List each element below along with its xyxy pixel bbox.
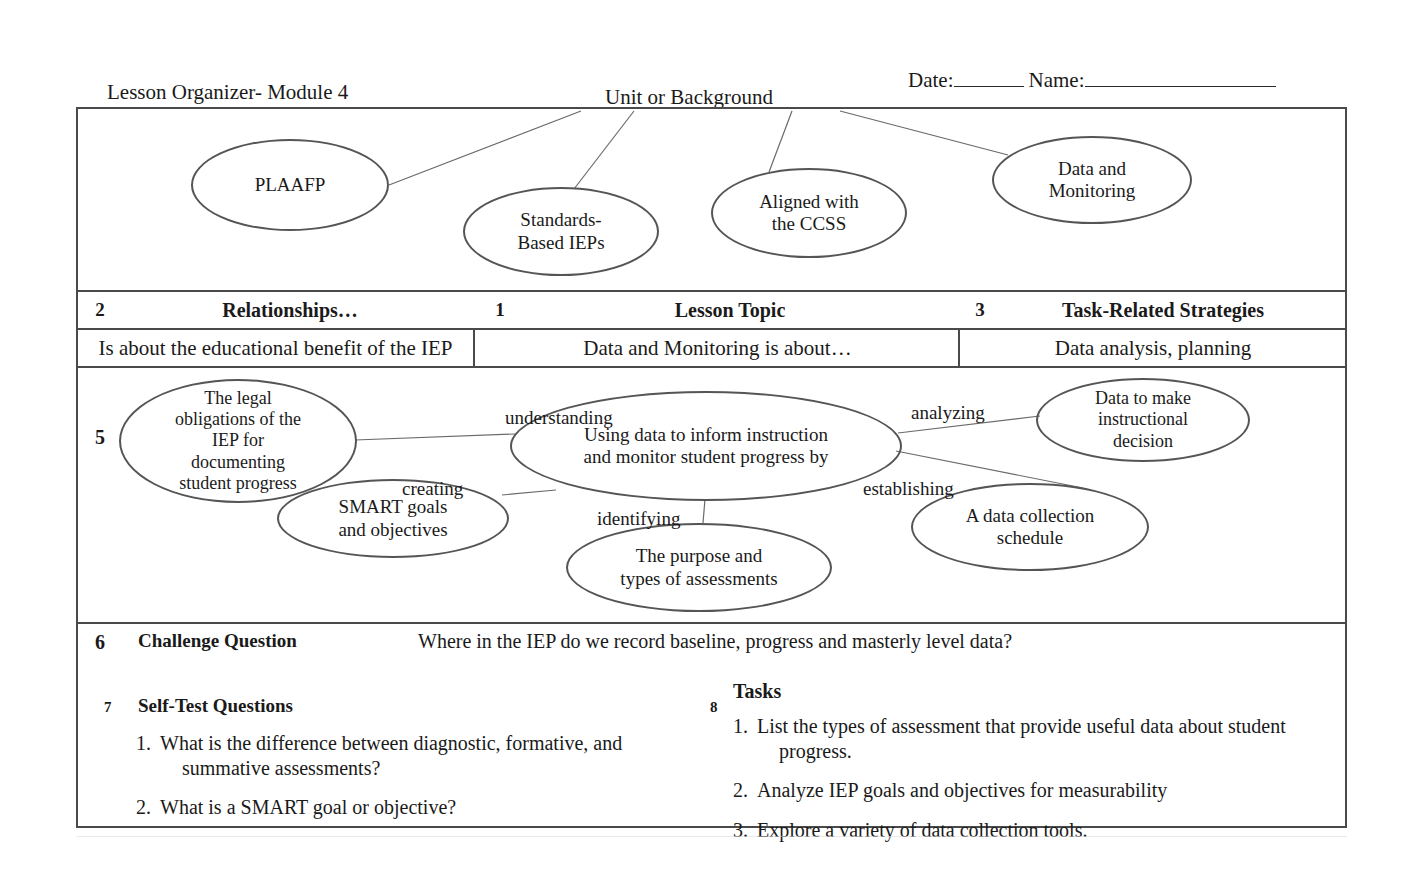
edge-label-identifying: identifying: [597, 508, 680, 530]
edge-label-creating: creating: [402, 478, 463, 500]
edge-label-establishing: establishing: [863, 478, 954, 500]
list-item-number: 1.: [733, 714, 757, 764]
name-label: Name:: [1028, 68, 1084, 93]
list-item-line1: List the types of assessment that provid…: [757, 715, 1286, 737]
tasks-number: 8: [710, 699, 718, 716]
subtitle-task-related[interactable]: Data analysis, planning: [962, 330, 1344, 366]
edge-label-analyzing: analyzing: [911, 402, 985, 424]
list-item-body: What is the difference between diagnosti…: [160, 731, 636, 781]
list-item-body: What is a SMART goal or objective?: [160, 795, 636, 820]
list-item-line1: What is a SMART goal or objective?: [160, 796, 456, 818]
ellipse-aligned-with-ccss-label: Aligned withthe CCSS: [753, 191, 865, 236]
list-item: 2. Analyze IEP goals and objectives for …: [733, 778, 1303, 803]
column-title-lesson-topic: Lesson Topic: [522, 299, 958, 322]
ellipse-legal-obligations-label: The legalobligations of theIEP fordocume…: [169, 388, 307, 494]
scan-artifact: [76, 836, 1347, 837]
subtitle-lesson-topic[interactable]: Data and Monitoring is about…: [477, 330, 960, 366]
date-name-row: Date: Name:: [908, 68, 1276, 93]
list-item-line2: summative assessments?: [160, 756, 636, 781]
ellipse-legal-obligations[interactable]: The legalobligations of theIEP fordocume…: [119, 379, 357, 503]
column-number-lesson-topic: 1: [478, 299, 522, 321]
list-item: 2. What is a SMART goal or objective?: [136, 795, 636, 820]
list-item-body: Explore a variety of data collection too…: [757, 818, 1303, 843]
column-subtitles-row: Is about the educational benefit of the …: [78, 328, 1345, 368]
column-number-relationships: 2: [78, 299, 122, 321]
list-item: 3. Explore a variety of data collection …: [733, 818, 1303, 843]
ellipse-plaafp[interactable]: PLAAFP: [191, 139, 389, 231]
date-input-rule[interactable]: [954, 71, 1024, 87]
tasks-title: Tasks: [733, 680, 781, 703]
questions-band: 6 Challenge Question Where in the IEP do…: [78, 624, 1345, 827]
ellipse-plaafp-label: PLAAFP: [249, 174, 332, 196]
ellipse-smart-goals-label: SMART goalsand objectives: [332, 496, 453, 541]
concept-map-band: 5 The legalobligations of theIEP fordocu…: [78, 368, 1345, 624]
list-item-number: 1.: [136, 731, 160, 781]
list-item-line1: What is the difference between diagnosti…: [160, 732, 622, 754]
self-test-number: 7: [104, 699, 112, 716]
ellipse-data-collection-schedule-label: A data collectionschedule: [960, 505, 1101, 550]
column-header-relationships: 2 Relationships…: [78, 292, 478, 328]
list-item-number: 3.: [733, 818, 757, 843]
ellipse-standards-based-ieps-label: Standards-Based IEPs: [511, 209, 610, 254]
list-item: 1. List the types of assessment that pro…: [733, 714, 1303, 764]
list-item-line1: Explore a variety of data collection too…: [757, 819, 1087, 841]
ellipse-standards-based-ieps[interactable]: Standards-Based IEPs: [463, 187, 659, 276]
lesson-organizer-page: Unit or Background The Blueprint Modules…: [0, 0, 1413, 871]
self-test-list: 1. What is the difference between diagno…: [136, 731, 636, 835]
ellipse-center-topic-label: Using data to inform instructionand moni…: [578, 424, 835, 469]
column-header-lesson-topic: 1 Lesson Topic: [478, 292, 958, 328]
ellipse-aligned-with-ccss[interactable]: Aligned withthe CCSS: [711, 168, 907, 258]
list-item-body: Analyze IEP goals and objectives for mea…: [757, 778, 1303, 803]
self-test-title: Self-Test Questions: [138, 695, 293, 717]
list-item-number: 2.: [136, 795, 160, 820]
ellipse-purpose-of-assessments-label: The purpose andtypes of assessments: [614, 545, 783, 590]
list-item-line1: Analyze IEP goals and objectives for mea…: [757, 779, 1167, 801]
challenge-question-number: 6: [95, 631, 105, 654]
ellipse-data-and-monitoring-label: Data andMonitoring: [1043, 158, 1142, 203]
column-headers-row: 2 Relationships… 1 Lesson Topic 3 Task-R…: [78, 292, 1345, 328]
ellipse-instructional-decision[interactable]: Data to makeinstructionaldecision: [1036, 378, 1250, 462]
organizer-frame: PLAAFP Standards-Based IEPs Aligned with…: [76, 107, 1347, 828]
list-item-number: 2.: [733, 778, 757, 803]
column-header-task-related: 3 Task-Related Strategies: [958, 292, 1344, 328]
name-input-rule[interactable]: [1085, 71, 1276, 87]
list-item-line2: progress.: [757, 739, 1303, 764]
unit-background-band: PLAAFP Standards-Based IEPs Aligned with…: [78, 109, 1345, 292]
challenge-question-title: Challenge Question: [138, 630, 297, 652]
edge-label-understanding: understanding: [505, 407, 613, 429]
page-title: Lesson Organizer- Module 4: [107, 80, 348, 105]
ellipse-smart-goals[interactable]: SMART goalsand objectives: [277, 479, 509, 558]
column-title-relationships: Relationships…: [122, 299, 478, 322]
date-label: Date:: [908, 68, 953, 93]
list-item: 1. What is the difference between diagno…: [136, 731, 636, 781]
ellipse-purpose-of-assessments[interactable]: The purpose andtypes of assessments: [566, 523, 832, 612]
subtitle-relationships[interactable]: Is about the educational benefit of the …: [78, 330, 475, 366]
ellipse-instructional-decision-label: Data to makeinstructionaldecision: [1089, 388, 1197, 452]
column-title-task-related: Task-Related Strategies: [1002, 299, 1344, 322]
ellipse-data-and-monitoring[interactable]: Data andMonitoring: [992, 136, 1192, 224]
list-item-body: List the types of assessment that provid…: [757, 714, 1303, 764]
challenge-question-text: Where in the IEP do we record baseline, …: [418, 630, 1012, 653]
column-number-task-related: 3: [958, 299, 1002, 321]
